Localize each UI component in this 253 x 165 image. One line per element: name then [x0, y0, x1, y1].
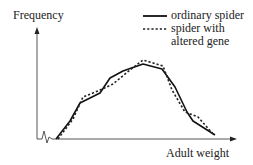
x-axis-break [37, 131, 52, 143]
legend-label-altered-2: altered gene [171, 35, 229, 48]
y-axis-label: Frequency [13, 9, 64, 22]
x-axis-label: Adult weight [166, 147, 229, 160]
x-axis-arrow-icon [230, 137, 237, 142]
series-ordinary-spider [56, 64, 215, 139]
y-axis-arrow-icon [35, 27, 40, 34]
series-altered-gene [58, 60, 213, 139]
